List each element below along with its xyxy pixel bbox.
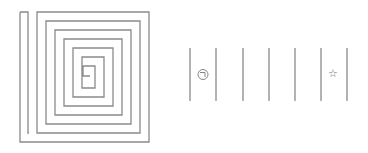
star-icon: ☆ xyxy=(328,68,338,79)
circle-corner-icon xyxy=(198,70,208,80)
symbol-strip xyxy=(0,0,368,153)
